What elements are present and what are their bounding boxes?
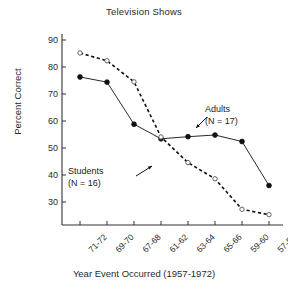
chart-figure: Television Shows Percent Correct 90 80 7… (0, 0, 288, 290)
data-point-students (240, 207, 244, 211)
data-point-students (159, 135, 163, 139)
data-point-adults (240, 139, 245, 144)
data-point-students (213, 177, 217, 181)
data-point-adults (213, 133, 218, 138)
series-line-students (80, 53, 269, 215)
series-line-adults (80, 77, 269, 186)
data-point-adults (132, 122, 137, 127)
data-point-adults (186, 134, 191, 139)
data-point-students (105, 59, 109, 63)
data-point-adults (78, 75, 83, 80)
data-point-students (78, 51, 82, 55)
data-point-adults (267, 183, 272, 188)
data-point-students (132, 80, 136, 84)
plot-area (0, 0, 288, 290)
data-point-students (186, 160, 190, 164)
data-point-adults (105, 80, 110, 85)
data-point-students (267, 212, 271, 216)
